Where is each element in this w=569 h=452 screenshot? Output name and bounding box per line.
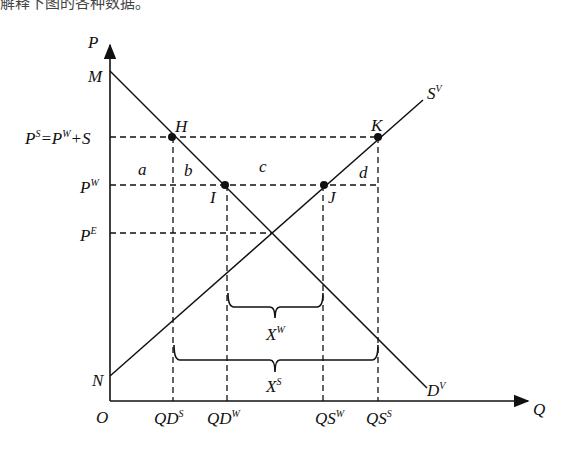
i-label: I [209, 188, 217, 207]
j-label: J [328, 188, 337, 207]
y-axis-label: P [87, 33, 98, 52]
qdw-label: QDW [207, 408, 242, 428]
h-label: H [174, 117, 189, 136]
x-axis-label: Q [533, 400, 545, 419]
qds-label: QDS [154, 408, 184, 428]
area-c-label: c [259, 157, 267, 176]
equilibrium-price-label: PE [79, 225, 97, 245]
point-j [320, 181, 328, 189]
subsidy-price-label: PS=PW+S [24, 128, 91, 148]
m-label: M [87, 67, 103, 86]
brace-xw [228, 293, 323, 318]
area-d-label: d [359, 163, 368, 182]
k-label: K [370, 116, 384, 135]
qss-label: QSS [366, 408, 392, 428]
xw-label: XW [265, 324, 286, 344]
brace-xs [174, 345, 378, 372]
area-a-label: a [138, 160, 147, 179]
n-label: N [91, 371, 105, 390]
demand-label: DV [426, 380, 447, 400]
origin-label: O [96, 408, 108, 427]
world-price-label: PW [79, 177, 100, 197]
area-b-label: b [184, 161, 193, 180]
supply-label: SV [427, 83, 444, 103]
point-i [221, 181, 229, 189]
export-subsidy-diagram: P Q O M N PS=PW+S PW PE H I J K a b c d … [0, 0, 569, 452]
xs-label: XS [265, 376, 281, 396]
qsw-label: QSW [315, 408, 346, 428]
